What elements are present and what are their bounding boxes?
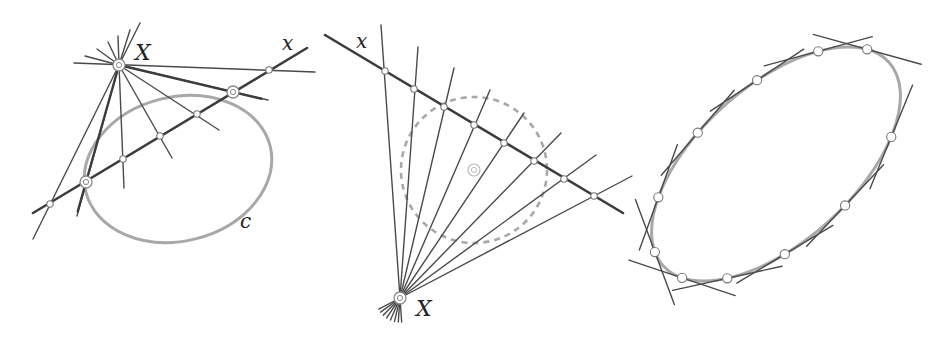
pencil-ray xyxy=(119,65,124,188)
tangent-point xyxy=(863,45,872,54)
tangent-point xyxy=(814,47,823,56)
tangent-point xyxy=(723,274,732,283)
pencil-ray xyxy=(381,25,400,298)
pencil-ray xyxy=(400,90,490,298)
tangent-point xyxy=(654,193,663,202)
polar-point xyxy=(382,68,388,74)
panel-pole-polar-circle xyxy=(325,25,632,322)
polar-point xyxy=(47,201,53,207)
tangent-point xyxy=(80,176,92,188)
label-polar-middle: x xyxy=(356,29,367,53)
figure: X x c X x xyxy=(0,0,943,338)
tangent-point xyxy=(752,76,761,85)
pole-X xyxy=(113,59,125,71)
tangent-point xyxy=(650,247,659,256)
tangent-line xyxy=(78,65,119,211)
polar-point xyxy=(411,86,417,92)
tangent-point xyxy=(780,250,789,259)
conic xyxy=(611,4,941,323)
label-conic-left: c xyxy=(240,209,251,233)
tangent-point xyxy=(841,201,850,210)
polar-point xyxy=(591,193,597,199)
label-pole-left: X xyxy=(133,40,152,65)
polar-point xyxy=(561,176,567,182)
panel-pole-polar-conic xyxy=(33,23,315,262)
polar-point xyxy=(120,156,126,162)
pencil-ray xyxy=(400,133,561,298)
tangent-point xyxy=(887,132,896,141)
polar-point xyxy=(501,140,507,146)
panel-conic-tangents xyxy=(611,4,941,323)
diagram-canvas: X x c X x xyxy=(0,0,943,338)
polar-point xyxy=(194,111,200,117)
label-polar-left: x xyxy=(282,31,293,55)
circle-center-marker-inner xyxy=(471,167,476,172)
circle-center-marker xyxy=(468,164,480,176)
tangent-point xyxy=(677,273,686,282)
polar-point xyxy=(531,158,537,164)
tangent-point xyxy=(693,128,702,137)
polar-point xyxy=(471,122,477,128)
label-pole-middle: X xyxy=(414,296,433,321)
polar-point xyxy=(157,133,163,139)
tangent-line xyxy=(119,65,262,99)
pencil-ray xyxy=(33,65,119,239)
tangent-point xyxy=(227,86,239,98)
pole-X xyxy=(394,292,406,304)
polar-point xyxy=(266,67,272,73)
polar-point xyxy=(441,104,447,110)
